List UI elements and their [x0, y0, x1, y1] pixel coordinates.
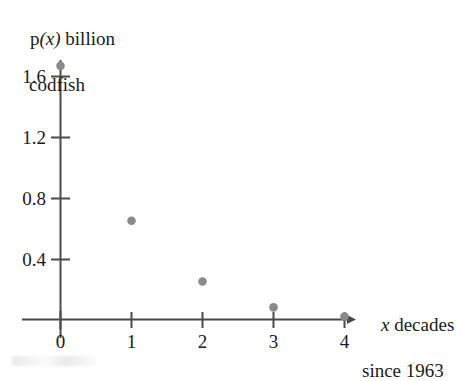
- x-tick-label-0: 0: [46, 331, 76, 353]
- y-tick-label-0.4: 0.4: [2, 249, 46, 271]
- y-tick-label-0.8: 0.8: [2, 188, 46, 210]
- x-tick-label-2: 2: [188, 331, 218, 353]
- x-tick-label-4: 4: [330, 331, 360, 353]
- x-tick-label-3: 3: [259, 331, 289, 353]
- y-tick-label-1.2: 1.2: [2, 127, 46, 149]
- x-axis-label: x decades since 1963: [362, 290, 454, 381]
- x-axis-label-line1: x decades: [381, 314, 454, 335]
- x-tick-label-1: 1: [117, 331, 147, 353]
- data-point: [340, 312, 349, 321]
- data-point: [269, 303, 278, 312]
- y-tick-label-1.6: 1.6: [2, 66, 46, 88]
- data-point: [198, 277, 207, 286]
- data-point: [127, 216, 136, 225]
- y-axis-label-line1: p(x) billion: [30, 28, 115, 49]
- x-axis-label-line2: since 1963: [362, 359, 454, 381]
